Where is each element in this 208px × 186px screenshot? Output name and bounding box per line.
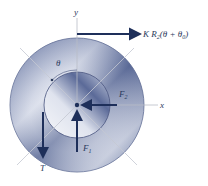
y-axis-label: y	[73, 7, 78, 17]
gear-free-body-diagram: y x θ K R2(θ + θ0) F2 F1 T	[0, 0, 208, 186]
x-axis-label: x	[159, 100, 164, 110]
top-force-label: K R2(θ + θ0)	[142, 29, 188, 40]
t-label: T	[40, 163, 46, 173]
center-pin	[75, 103, 79, 107]
theta-arc-end	[51, 79, 54, 82]
theta-label: θ	[56, 58, 61, 68]
